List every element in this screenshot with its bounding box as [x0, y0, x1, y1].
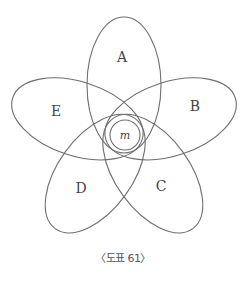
petal-label-e: E — [51, 103, 61, 119]
figure-caption: 〈도표 61〉 — [0, 249, 246, 265]
petal-ellipse-d — [25, 97, 165, 251]
petal-label-a: A — [116, 49, 128, 65]
center-label-m: m — [120, 129, 130, 142]
petal-label-c: C — [156, 178, 167, 194]
five-set-venn-diagram: ABCDE m — [0, 0, 246, 282]
petal-label-b: B — [190, 98, 200, 114]
label-group: ABCDE — [51, 49, 200, 196]
petal-ellipse-c — [83, 97, 223, 251]
petal-label-d: D — [75, 180, 86, 196]
